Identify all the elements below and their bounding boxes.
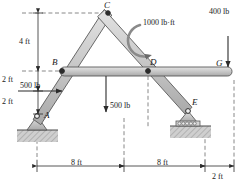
dim-label-8ft-left: 8 ft [71, 158, 82, 167]
joint-label-b: B [52, 57, 58, 67]
vertical-dimension-chain [33, 13, 43, 114]
horizontal-dimension-chain [37, 160, 234, 172]
dim-label-8ft-right: 8 ft [157, 158, 168, 167]
dim-label-4ft: 4 ft [19, 37, 30, 46]
joint-label-d: D [150, 57, 157, 67]
dim-label-2ft-upper: 2 ft [2, 75, 13, 84]
load-label-couple-moment: 1000 lb·ft [143, 18, 175, 27]
dim-label-2ft-right: 2 ft [212, 172, 223, 181]
diagram-svg [0, 0, 248, 183]
joint-label-c: C [104, 0, 110, 10]
load-label-500-horizontal: 500 lb [20, 81, 40, 90]
dim-label-2ft-lower: 2 ft [2, 97, 13, 106]
joint-label-e: E [192, 97, 198, 107]
joint-label-g: G [216, 58, 223, 68]
load-label-400-vertical: 400 lb [209, 7, 229, 16]
load-label-500-vertical: 500 lb [110, 101, 130, 110]
figure-canvas: C B D G A E 500 lb 500 lb 400 lb 1000 lb… [0, 0, 248, 183]
joint-label-a: A [44, 110, 50, 120]
